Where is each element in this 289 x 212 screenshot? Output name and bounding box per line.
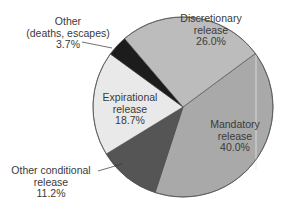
label-discretionary-line1: Discretionary (166, 13, 256, 25)
label-other-conditional-line1: Other conditional (0, 165, 102, 177)
label-other: Other (deaths, escapes) 3.7% (18, 16, 118, 51)
label-other-conditional: Other conditional release 11.2% (0, 165, 102, 200)
label-discretionary: Discretionary release 26.0% (166, 13, 256, 48)
label-other-conditional-pct: 11.2% (0, 188, 102, 200)
label-discretionary-pct: 26.0% (166, 36, 256, 48)
label-other-line1: Other (18, 16, 118, 28)
label-mandatory-line1: Mandatory (193, 119, 277, 131)
label-expirational-line1: Expirational (92, 92, 168, 104)
label-other-pct: 3.7% (18, 39, 118, 51)
label-expirational-pct: 18.7% (92, 115, 168, 127)
label-mandatory-pct: 40.0% (193, 142, 277, 154)
label-expirational: Expirational release 18.7% (92, 92, 168, 127)
label-mandatory: Mandatory release 40.0% (193, 119, 277, 154)
